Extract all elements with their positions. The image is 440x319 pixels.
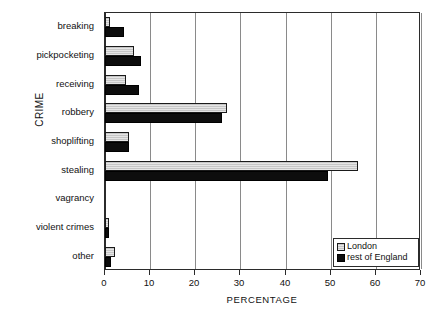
y-tick-label-breaking: breaking	[0, 21, 94, 31]
y-tick-label-violent-crimes: violent crimes	[0, 222, 94, 232]
bar-robbery-rest-of-england	[105, 113, 222, 123]
gridline-40	[286, 13, 287, 269]
x-tick-label-70: 70	[405, 277, 435, 288]
bar-pickpocketing-london	[105, 46, 134, 56]
bar-violent-crimes-london	[105, 218, 109, 228]
bar-chart: CRIME breakingpickpocketingreceivingrobb…	[0, 0, 440, 319]
bar-robbery-london	[105, 103, 227, 113]
y-tick-label-other: other	[0, 251, 94, 261]
x-tick-label-10: 10	[134, 277, 164, 288]
x-tick-label-0: 0	[89, 277, 119, 288]
bar-shoplifting-rest-of-england	[105, 142, 129, 152]
legend-item-rest-of-england: rest of England	[337, 252, 415, 263]
y-tick-label-receiving: receiving	[0, 79, 94, 89]
legend-swatch-icon-rest-of-england	[337, 254, 345, 262]
y-tick-label-vagrancy: vagrancy	[0, 193, 94, 203]
x-tick-mark-0	[104, 270, 105, 275]
gridline-30	[240, 13, 241, 269]
gridline-10	[150, 13, 151, 269]
x-tick-mark-40	[285, 270, 286, 275]
legend-swatch-icon-london	[337, 243, 345, 251]
bar-other-london	[105, 247, 115, 257]
bar-pickpocketing-rest-of-england	[105, 56, 141, 66]
x-tick-label-50: 50	[315, 277, 345, 288]
x-tick-label-30: 30	[224, 277, 254, 288]
bar-breaking-london	[105, 17, 110, 27]
y-tick-label-pickpocketing: pickpocketing	[0, 50, 94, 60]
y-tick-label-shoplifting: shoplifting	[0, 136, 94, 146]
plot-area	[104, 12, 420, 270]
y-tick-label-robbery: robbery	[0, 107, 94, 117]
x-tick-mark-60	[375, 270, 376, 275]
bar-receiving-london	[105, 75, 126, 85]
x-tick-mark-70	[420, 270, 421, 275]
legend-label: London	[347, 242, 377, 251]
gridline-60	[376, 13, 377, 269]
bar-shoplifting-london	[105, 132, 129, 142]
bar-stealing-london	[105, 161, 358, 171]
bar-receiving-rest-of-england	[105, 85, 139, 95]
x-tick-label-40: 40	[270, 277, 300, 288]
gridline-50	[331, 13, 332, 269]
legend-item-london: London	[337, 241, 415, 252]
x-tick-mark-50	[330, 270, 331, 275]
x-tick-label-60: 60	[360, 277, 390, 288]
gridline-20	[195, 13, 196, 269]
x-tick-mark-20	[194, 270, 195, 275]
bar-stealing-rest-of-england	[105, 171, 328, 181]
x-axis-title: PERCENTAGE	[104, 294, 420, 305]
y-tick-label-stealing: stealing	[0, 165, 94, 175]
y-axis-category-labels: breakingpickpocketingreceivingrobberysho…	[0, 12, 100, 270]
gridline-70	[421, 13, 422, 269]
bar-other-rest-of-england	[105, 257, 111, 267]
x-tick-mark-30	[239, 270, 240, 275]
bar-breaking-rest-of-england	[105, 27, 124, 37]
chart-legend: Londonrest of England	[333, 238, 419, 267]
legend-label: rest of England	[347, 253, 408, 262]
x-tick-label-20: 20	[179, 277, 209, 288]
bar-violent-crimes-rest-of-england	[105, 228, 109, 238]
x-tick-mark-10	[149, 270, 150, 275]
